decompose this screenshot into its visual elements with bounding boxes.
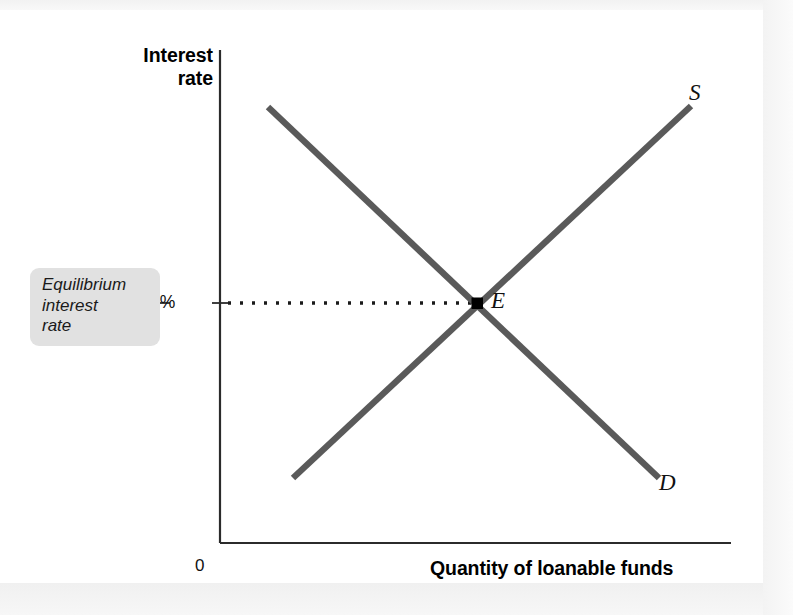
- demand-curve: [268, 107, 659, 478]
- supply-curve-label: S: [689, 80, 701, 106]
- callout-line3: rate: [42, 316, 71, 335]
- equilibrium-callout-box: Equilibrium interest rate: [30, 268, 160, 346]
- loanable-funds-diagram: Interest rate Quantity of loanable funds…: [0, 0, 765, 600]
- page-canvas: Interest rate Quantity of loanable funds…: [0, 0, 793, 615]
- scan-band-right: [763, 0, 793, 615]
- y-axis-title: Interest rate: [60, 44, 213, 89]
- y-axis-title-line2: rate: [178, 67, 213, 89]
- equilibrium-point-marker: [472, 298, 484, 310]
- origin-label: 0: [195, 556, 204, 576]
- equilibrium-point-label: E: [491, 288, 505, 314]
- x-axis-title: Quantity of loanable funds: [430, 557, 673, 580]
- demand-curve-label: D: [659, 470, 676, 496]
- callout-line2: interest: [42, 296, 98, 315]
- callout-line1: Equilibrium: [42, 275, 126, 294]
- y-axis-title-line1: Interest: [143, 44, 213, 66]
